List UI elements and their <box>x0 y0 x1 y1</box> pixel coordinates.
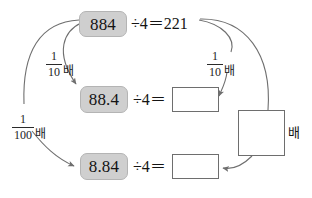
fraction-numerator: 1 <box>18 113 28 126</box>
fraction-one-hundredth: 1 100 <box>12 113 34 141</box>
answer-box-row2[interactable] <box>172 87 219 112</box>
fraction-numerator: 1 <box>49 50 59 63</box>
fraction-denominator: 10 <box>46 66 62 79</box>
multiplier-label-left-hundredth: 1 100 배 <box>12 113 46 141</box>
multiplier-label-right-tenth: 1 10 배 <box>207 50 235 78</box>
multiplier-unit: 배 <box>63 65 74 78</box>
fraction-denominator: 10 <box>207 66 223 79</box>
equation-row3: ÷4＝ <box>133 159 166 175</box>
unknown-multiplier-box[interactable] <box>238 110 285 156</box>
multiplier-label-left-tenth: 1 10 배 <box>46 50 74 78</box>
diagram-canvas: 884 ÷4＝221 88.4 ÷4＝ 8.84 ÷4＝ 1 10 배 1 10… <box>0 0 312 198</box>
multiplier-unit: 배 <box>224 65 235 78</box>
fraction-denominator: 100 <box>12 129 34 142</box>
fraction-one-tenth-right: 1 10 <box>207 50 223 78</box>
dividend-chip-row1: 884 <box>79 11 127 37</box>
dividend-chip-row3: 8.84 <box>80 153 128 180</box>
dividend-chip-row2: 88.4 <box>80 86 128 113</box>
arrow-221-to-row2-upper <box>199 20 232 52</box>
equation-row2: ÷4＝ <box>133 92 166 108</box>
unknown-multiplier-unit: 배 <box>288 126 300 139</box>
multiplier-unit: 배 <box>35 128 46 141</box>
arrow-square-to-row3 <box>223 156 252 168</box>
fraction-one-tenth-left: 1 10 <box>46 50 62 78</box>
fraction-numerator: 1 <box>210 50 220 63</box>
answer-box-row3[interactable] <box>172 154 219 179</box>
equation-row1: ÷4＝221 <box>131 16 188 32</box>
